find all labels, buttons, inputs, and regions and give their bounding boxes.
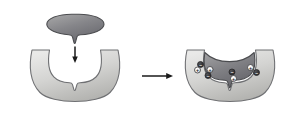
positive-charge-icon bbox=[231, 76, 237, 82]
positive-charge-icon bbox=[207, 67, 213, 73]
reaction-arrow-right bbox=[142, 73, 173, 79]
negative-charge-icon bbox=[229, 69, 235, 75]
panel-unbound bbox=[30, 14, 119, 101]
negative-charge-icon bbox=[198, 62, 204, 68]
figure-root: −++−−++− bbox=[0, 0, 303, 119]
negative-charge-icon bbox=[254, 70, 260, 76]
charge-marker-negative: − bbox=[205, 73, 211, 79]
negative-charge-icon bbox=[205, 73, 211, 79]
positive-charge-icon bbox=[195, 67, 201, 73]
positive-charge-icon bbox=[248, 65, 254, 71]
substrate-free-shape bbox=[47, 14, 104, 43]
charge-marker-positive: + bbox=[248, 65, 254, 71]
charge-marker-positive: + bbox=[207, 67, 213, 73]
enzyme-substrate-diagram: −++−−++− bbox=[0, 0, 303, 119]
panel-bound-complex: −++−−++− bbox=[185, 50, 274, 102]
charge-marker-negative: − bbox=[229, 69, 235, 75]
charge-marker-positive: + bbox=[195, 67, 201, 73]
binding-arrow-down bbox=[72, 47, 78, 64]
charge-marker-negative: − bbox=[254, 70, 260, 76]
charge-marker-positive: + bbox=[231, 76, 237, 82]
